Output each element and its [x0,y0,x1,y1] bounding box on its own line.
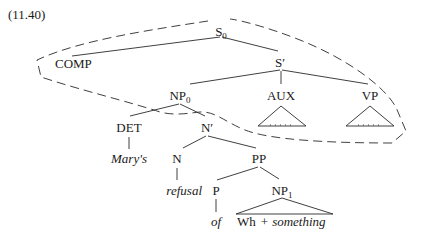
edge-pp-np1 [260,167,279,179]
triangle-vp [346,106,394,126]
node-comp: COMP [55,56,92,71]
node-det: DET [116,120,141,135]
edge-nbar-n [183,136,206,148]
example-number: (11.40) [8,7,45,22]
edge-s0-comp [72,37,220,56]
node-np0: NP0 [169,88,191,105]
node-n: N [172,151,182,166]
edge-pp-p [217,167,258,180]
edge-nbar-pp [208,136,256,148]
edge-sbar-np0 [190,70,280,84]
triangle-np1 [236,198,333,214]
node-p: P [212,183,219,198]
node-s0: S0 [215,24,227,41]
node-pp: PP [252,151,266,166]
node-vp: VP [362,88,379,103]
node-s-bar: S′ [275,55,285,70]
triangle-aux [258,106,306,126]
word-wh-something: Wh+something [237,214,326,229]
word-marys: Mary's [110,151,147,166]
edge-sbar-vp [282,70,368,84]
node-aux: AUX [267,88,296,103]
node-np1: NP1 [271,183,292,200]
word-refusal: refusal [166,183,202,198]
syntax-tree-diagram: (11.40) S0 COMP S′ NP0 AUX VP DET N′ Mar… [0,0,421,240]
word-of: of [211,214,224,229]
edge-s0-sbar [222,37,278,51]
node-n-bar: N′ [201,120,213,135]
